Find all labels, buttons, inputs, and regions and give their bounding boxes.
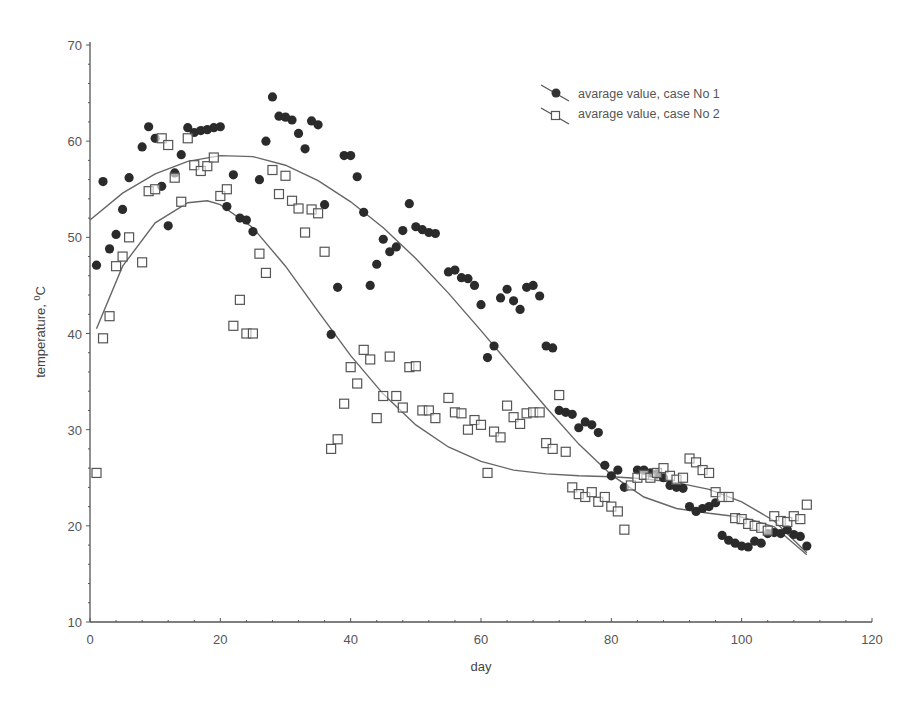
data-point-case-1 [125,173,134,182]
data-point-case-2 [679,473,688,482]
data-point-case-2 [99,334,108,343]
data-point-case-1 [268,92,277,101]
data-point-case-1 [470,281,479,290]
data-point-case-2 [261,268,270,277]
data-point-case-2 [151,185,160,194]
data-point-case-2 [431,414,440,423]
data-point-case-2 [600,492,609,501]
data-point-case-1 [548,343,557,352]
data-point-case-1 [118,205,127,214]
data-point-case-2 [724,492,733,501]
data-point-case-1 [111,230,120,239]
y-tick-label: 30 [68,423,82,438]
x-axis-title: day [471,659,492,674]
data-point-case-1 [216,122,225,131]
data-point-case-1 [483,353,492,362]
data-point-case-1 [359,208,368,217]
data-point-case-2 [294,204,303,213]
data-point-case-2 [561,447,570,456]
data-point-case-1 [164,221,173,230]
y-tick-label: 10 [68,615,82,630]
data-point-case-1 [294,129,303,138]
legend: avarage value, case No 1 avarage value, … [541,85,720,124]
legend-label-case-1: avarage value, case No 1 [578,87,720,101]
data-point-case-1 [529,281,538,290]
x-tick-label: 100 [731,632,753,647]
data-point-case-2 [705,468,714,477]
data-point-case-2 [118,252,127,261]
data-point-case-1 [300,144,309,153]
fit-curves [90,156,807,555]
x-tick-label: 80 [604,632,618,647]
data-point-case-2 [411,362,420,371]
data-point-case-2 [372,414,381,423]
data-point-case-1 [105,244,114,253]
data-point-case-1 [92,261,101,270]
data-point-case-1 [398,226,407,235]
data-point-case-1 [248,227,257,236]
data-point-case-1 [222,202,231,211]
data-point-case-2 [248,329,257,338]
data-point-case-1 [587,420,596,429]
data-point-case-2 [353,379,362,388]
data-point-case-1 [757,539,766,548]
data-point-case-1 [600,461,609,470]
y-axis-title: temperature, 0C [32,286,48,378]
data-point-case-1 [489,341,498,350]
data-point-case-2 [333,435,342,444]
data-point-case-2 [268,166,277,175]
data-point-case-2 [255,249,264,258]
data-point-case-1 [138,142,147,151]
x-tick-label: 20 [213,632,227,647]
data-point-case-2 [587,488,596,497]
data-point-case-1 [229,170,238,179]
data-point-case-2 [112,262,121,271]
data-point-case-2 [183,134,192,143]
data-point-case-2 [555,391,564,400]
data-point-case-2 [379,392,388,401]
data-point-case-1 [392,242,401,251]
data-point-case-1 [463,274,472,283]
data-point-case-1 [261,137,270,146]
data-point-case-2 [548,444,557,453]
data-point-case-1 [431,229,440,238]
data-point-case-2 [535,408,544,417]
data-point-case-2 [274,190,283,199]
data-points [92,92,812,551]
scatter-chart: 10203040506070 020406080100120 day tempe… [0,0,911,709]
fit-curve-case-1 [90,156,807,555]
data-point-case-2 [222,185,231,194]
y-tick-label: 20 [68,519,82,534]
data-point-case-1 [594,428,603,437]
data-point-case-2 [327,444,336,453]
y-tick-label: 40 [68,327,82,342]
data-point-case-2 [516,419,525,428]
x-tick-label: 0 [86,632,93,647]
data-point-case-2 [444,393,453,402]
data-point-case-1 [516,305,525,314]
data-point-case-2 [314,209,323,218]
svg-text:temperature, 0C: temperature, 0C [32,286,48,378]
data-point-case-2 [164,141,173,150]
data-point-case-1 [450,265,459,274]
data-point-case-1 [796,532,805,541]
data-point-case-2 [457,409,466,418]
data-point-case-2 [796,515,805,524]
data-point-case-1 [177,150,186,159]
legend-item-case-2: avarage value, case No 2 [541,107,720,124]
data-point-case-1 [366,281,375,290]
data-point-case-2 [763,526,772,535]
data-point-case-1 [535,291,544,300]
data-point-case-2 [320,247,329,256]
legend-item-case-1: avarage value, case No 1 [541,85,720,101]
data-point-case-2 [346,363,355,372]
data-point-case-2 [125,233,134,242]
data-point-case-2 [229,321,238,330]
data-point-case-2 [203,162,212,171]
y-ticks: 10203040506070 [68,38,90,630]
y-axis-title-main: temperature, [33,301,48,378]
data-point-case-1 [320,200,329,209]
y-axis-title-unit: C [33,286,48,295]
data-point-case-2 [301,228,310,237]
x-tick-label: 60 [474,632,488,647]
